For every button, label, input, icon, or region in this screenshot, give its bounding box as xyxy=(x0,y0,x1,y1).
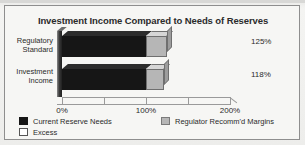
legend-swatch-grey xyxy=(161,117,170,125)
chart-frame: Investment Income Compared to Needs of R… xyxy=(4,5,300,140)
legend-label-current-reserve-needs: Current Reserve Needs xyxy=(33,117,112,126)
bar-segment-current-reserve-needs xyxy=(62,69,146,90)
category-label-line-2: Standard xyxy=(5,46,53,55)
bar-segment-regulator-margins xyxy=(146,69,164,90)
bar-segment-regulator-margins xyxy=(146,36,167,57)
x-axis-floor-front-edge xyxy=(57,104,231,105)
legend-swatch-black xyxy=(19,117,28,125)
bar-segment-right-face xyxy=(164,59,169,85)
x-axis-tick-0 xyxy=(62,97,63,104)
chart-card: Investment Income Compared to Needs of R… xyxy=(0,0,305,145)
x-axis-tick-50 xyxy=(104,97,105,104)
bar-segment-top-face-black xyxy=(62,64,152,69)
bar-segment-top-face-black xyxy=(62,31,152,36)
legend-label-excess: Excess xyxy=(33,128,57,137)
value-label-regulatory-standard: 125% xyxy=(251,37,271,46)
category-label-investment-income: Investment Income xyxy=(5,68,53,85)
value-label-investment-income: 118% xyxy=(251,70,271,79)
legend-label-regulator-recommd-margins: Regulator Recomm'd Margins xyxy=(175,117,274,126)
x-axis-floor-right-edge xyxy=(230,97,238,104)
bar-segment-current-reserve-needs xyxy=(62,36,146,57)
legend-swatch-white xyxy=(19,128,28,136)
scan-artifact-strip xyxy=(0,0,305,3)
x-axis-label-200: 200% xyxy=(215,106,245,115)
bar-segment-right-face xyxy=(167,26,172,52)
chart-legend: Current Reserve Needs Excess Regulator R… xyxy=(19,117,297,139)
x-axis-label-100: 100% xyxy=(131,106,161,115)
y-axis-wall-top-face xyxy=(57,27,67,31)
x-axis-tick-150 xyxy=(188,97,189,104)
chart-title: Investment Income Compared to Needs of R… xyxy=(5,15,301,26)
category-label-line-2: Income xyxy=(5,77,53,86)
x-axis-label-0: 0% xyxy=(47,106,77,115)
category-label-regulatory-standard: Regulatory Standard xyxy=(5,37,53,54)
plot-area xyxy=(57,31,237,104)
x-axis-tick-200 xyxy=(230,97,231,104)
x-axis-tick-100 xyxy=(146,97,147,104)
